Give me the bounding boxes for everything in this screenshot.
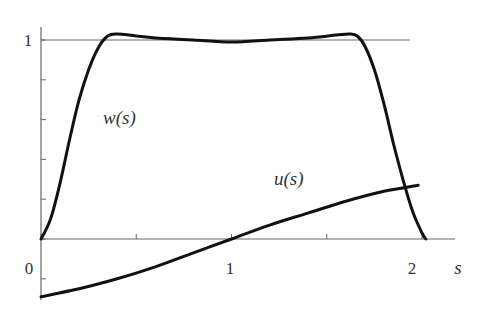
y-tick-label-1: 1 — [24, 31, 33, 50]
axes — [41, 27, 455, 300]
u-curve-label: u(s) — [274, 168, 304, 190]
curve-us — [41, 185, 418, 296]
x-tick-label-1: 1 — [226, 259, 235, 278]
plot-area — [41, 34, 426, 297]
x-tick-label-2: 2 — [408, 259, 417, 278]
x-tick-label-0: 0 — [25, 259, 34, 278]
x-axis-label: s — [454, 257, 461, 278]
chart: 1 0 1 2 s w(s) u(s) — [0, 0, 491, 313]
y-ticks — [41, 40, 46, 279]
w-curve-label: w(s) — [103, 107, 136, 129]
curve-ws — [41, 34, 426, 239]
curve-labels: w(s) u(s) — [103, 107, 304, 190]
